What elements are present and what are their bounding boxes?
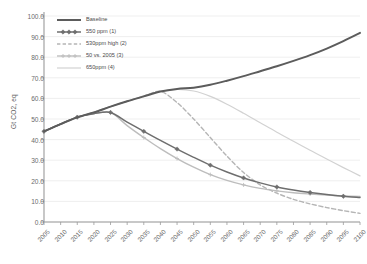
series-550-ppm-1 (42, 110, 360, 198)
data-point-marker (341, 194, 345, 198)
y-axis-tick-label: 0.0 (10, 219, 44, 226)
legend-label: 50 vs. 2005 (3) (86, 53, 123, 59)
legend-swatch-icon (56, 15, 82, 25)
legend-item-2[interactable]: 550 ppm (1) (56, 26, 160, 38)
y-axis-tick-label: 70.0 (10, 74, 44, 81)
y-axis-tick-label: 50.0 (10, 116, 44, 123)
y-axis-tick-label: 10.0 (10, 198, 44, 205)
y-axis-tick-label: 80.0 (10, 54, 44, 61)
series-530ppm-high-2 (44, 91, 360, 213)
y-axis-tick-label: 100.0 (10, 13, 44, 20)
y-axis-tick-labels: 0.010.020.030.040.050.060.070.080.090.01… (0, 0, 44, 264)
legend-label: 530ppm high (2) (86, 41, 127, 47)
y-axis-tick-label: 60.0 (10, 95, 44, 102)
series-line (44, 89, 360, 176)
series-650ppm-4 (44, 89, 360, 176)
legend-item-4[interactable]: 50 vs. 2005 (3) (56, 50, 160, 62)
series-line (44, 112, 360, 197)
y-axis-tick-label: 20.0 (10, 177, 44, 184)
legend-swatch-icon (56, 39, 82, 49)
legend-label: Baseline (86, 17, 107, 23)
series-line (44, 91, 360, 213)
data-point-marker (241, 176, 245, 180)
chart-legend: Baseline550 ppm (1)530ppm high (2)50 vs.… (56, 14, 160, 74)
legend-item-5[interactable]: 650ppm (4) (56, 62, 160, 74)
legend-label: 650ppm (4) (86, 65, 115, 71)
y-axis-tick-label: 30.0 (10, 157, 44, 164)
legend-swatch-icon (56, 51, 82, 61)
data-point-marker (61, 30, 65, 34)
data-point-marker (275, 185, 279, 189)
legend-item-3[interactable]: 530ppm high (2) (56, 38, 160, 50)
emissions-line-chart: Gt CO2, eq 0.010.020.030.040.050.060.070… (0, 0, 367, 264)
data-point-marker (67, 30, 71, 34)
legend-swatch-icon (56, 27, 82, 37)
legend-swatch-icon (56, 63, 82, 73)
y-axis-tick-label: 40.0 (10, 136, 44, 143)
series-50-vs-2005-3 (42, 110, 360, 197)
data-point-marker (208, 163, 212, 167)
legend-item-1[interactable]: Baseline (56, 14, 160, 26)
series-line (44, 112, 360, 198)
y-axis-tick-label: 90.0 (10, 33, 44, 40)
data-point-marker (73, 30, 77, 34)
legend-label: 550 ppm (1) (86, 29, 116, 35)
